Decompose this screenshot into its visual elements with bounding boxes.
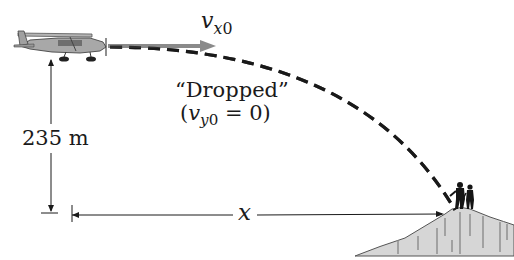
velocity-arrow [108, 40, 216, 52]
hikers-icon [450, 182, 474, 209]
condition-subscript-num: 0 [209, 111, 219, 129]
height-label: 235 m [22, 126, 89, 150]
dropped-label: “Dropped” [175, 78, 289, 102]
condition-subscript-var: y [200, 111, 209, 129]
condition-label: (vy0 = 0) [180, 101, 271, 129]
horizontal-dimension [72, 205, 444, 222]
velocity-symbol: v [201, 8, 213, 33]
condition-symbol: v [188, 101, 200, 125]
condition-open: ( [180, 101, 188, 125]
condition-rest: = 0) [218, 101, 271, 125]
velocity-subscript-num: 0 [222, 19, 232, 38]
velocity-label: vx0 [201, 8, 232, 38]
airplane-icon [14, 31, 106, 62]
horizontal-distance-label: x [238, 199, 251, 225]
